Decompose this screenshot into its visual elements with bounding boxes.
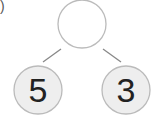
whole-circle[interactable] [58, 0, 106, 48]
connector-right [103, 49, 121, 62]
part-left-value: 5 [29, 71, 48, 109]
connector-left [43, 49, 61, 62]
part-right-value: 3 [117, 71, 136, 109]
number-bond-diagram: 5 3 [0, 0, 158, 120]
